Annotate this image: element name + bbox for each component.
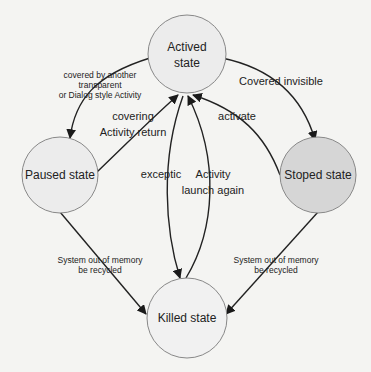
- edge-actived-to-killed: [167, 96, 183, 278]
- edge-label-actived-to-paused: covered by another transparent or Dialog…: [59, 70, 142, 100]
- svg-text:be recycled: be recycled: [78, 265, 122, 275]
- edge-label-killed-to-actived: Activity launch again: [182, 168, 244, 196]
- node-actived-label-line2: state: [174, 56, 200, 70]
- node-killed-label: Killed state: [158, 311, 217, 325]
- edge-label-paused-to-killed: System out of memory be recycled: [57, 255, 143, 275]
- edge-stoped-to-actived: [193, 95, 280, 175]
- svg-text:transparent: transparent: [79, 80, 123, 90]
- node-killed: Killed state: [147, 278, 227, 358]
- svg-text:System out of memory: System out of memory: [233, 255, 319, 265]
- svg-text:Activity return: Activity return: [100, 126, 167, 138]
- node-actived: Actived state: [148, 15, 226, 93]
- svg-text:covered by another: covered by another: [64, 70, 137, 80]
- edge-actived-to-stoped: [222, 58, 315, 140]
- edge-label-stoped-to-actived: activate: [218, 110, 256, 122]
- svg-text:launch again: launch again: [182, 184, 244, 196]
- node-actived-label-line1: Actived: [167, 40, 206, 54]
- node-stoped: Stoped state: [280, 137, 356, 213]
- node-stoped-label: Stoped state: [284, 168, 352, 182]
- edge-label-actived-to-killed: exceptic: [141, 168, 182, 180]
- node-paused-label: Paused state: [25, 168, 95, 182]
- svg-text:System out of memory: System out of memory: [57, 255, 143, 265]
- svg-text:covering: covering: [112, 110, 154, 122]
- activity-state-diagram: Actived state Paused state Stoped state …: [0, 0, 371, 372]
- svg-text:be recycled: be recycled: [254, 265, 298, 275]
- svg-text:or Dialog style Activity: or Dialog style Activity: [59, 90, 142, 100]
- svg-text:exceptic: exceptic: [141, 168, 182, 180]
- node-paused: Paused state: [22, 137, 98, 213]
- edge-label-stoped-to-killed: System out of memory be recycled: [233, 255, 319, 275]
- svg-text:activate: activate: [218, 110, 256, 122]
- svg-text:Covered invisible: Covered invisible: [239, 75, 323, 87]
- edge-label-actived-to-stoped: Covered invisible: [239, 75, 323, 87]
- svg-text:Activity: Activity: [196, 168, 231, 180]
